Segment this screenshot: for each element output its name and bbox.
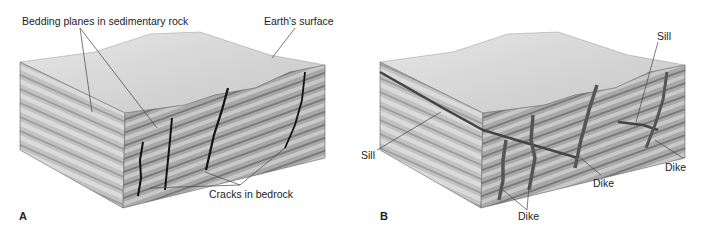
label-cracks-in-bedrock: Cracks in bedrock <box>209 188 293 200</box>
label-sill-left: Sill <box>361 149 375 161</box>
label-bedding-planes: Bedding planes in sedimentary rock <box>22 15 188 27</box>
label-dike-right: Dike <box>665 161 686 173</box>
panel-a: Bedding planes in sedimentary rock Earth… <box>0 0 353 236</box>
label-dike-bottom: Dike <box>518 210 539 222</box>
panel-label-a: A <box>19 210 27 222</box>
label-dike-middle: Dike <box>593 177 614 189</box>
block-diagram-b <box>353 0 706 236</box>
block-diagram-a <box>0 0 353 236</box>
label-sill-right: Sill <box>657 30 671 42</box>
label-earths-surface: Earth's surface <box>264 15 334 27</box>
panel-b: Sill Sill Dike Dike Dike B <box>353 0 706 236</box>
panel-label-b: B <box>380 210 388 222</box>
